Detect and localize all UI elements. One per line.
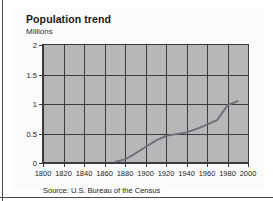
- x-tick-mark: [43, 163, 44, 167]
- x-tick-mark: [187, 163, 188, 167]
- x-tick-label: 1980: [219, 169, 236, 178]
- page-left-rule: [2, 0, 3, 201]
- x-tick-mark: [84, 163, 85, 167]
- x-tick-mark: [207, 163, 208, 167]
- x-tick-label: 1800: [35, 169, 52, 178]
- x-tick-mark: [166, 163, 167, 167]
- x-tick-mark: [248, 163, 249, 167]
- x-tick-label: 2000: [240, 169, 257, 178]
- chart-figure: Population trend Millions 00.511.52 1800…: [13, 8, 263, 190]
- x-tick-label: 1960: [199, 169, 216, 178]
- x-tick-mark: [64, 163, 65, 167]
- x-tick-mark: [146, 163, 147, 167]
- figure-page: Population trend Millions 00.511.52 1800…: [0, 0, 273, 201]
- chart-title: Population trend: [26, 13, 111, 25]
- x-tick-label: 1900: [137, 169, 154, 178]
- x-tick-label: 1940: [178, 169, 195, 178]
- x-tick-label: 1820: [55, 169, 72, 178]
- x-tick-label: 1840: [76, 169, 93, 178]
- chart-subtitle-units: Millions: [26, 27, 53, 36]
- page-bottom-rule: [0, 197, 273, 198]
- gridline-vertical: [248, 45, 249, 163]
- y-tick-label: 2: [33, 41, 37, 50]
- plot-region: 00.511.52 180018201840186018801900192019…: [43, 45, 248, 163]
- x-tick-mark: [125, 163, 126, 167]
- x-tick-label: 1920: [158, 169, 175, 178]
- x-tick-mark: [228, 163, 229, 167]
- series-line-population: [43, 45, 248, 163]
- x-tick-label: 1860: [96, 169, 113, 178]
- y-tick-label: 1.5: [27, 70, 37, 79]
- x-tick-mark: [105, 163, 106, 167]
- y-tick-label: 1: [33, 100, 37, 109]
- y-tick-label: 0: [33, 159, 37, 168]
- chart-source-note: Source: U.S. Bureau of the Census: [43, 186, 160, 195]
- y-tick-label: 0.5: [27, 129, 37, 138]
- x-tick-label: 1880: [117, 169, 134, 178]
